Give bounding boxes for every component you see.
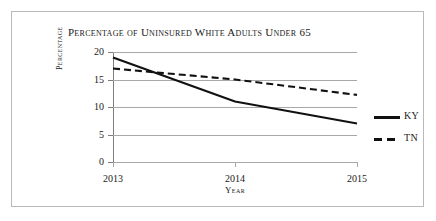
x-axis-title: Year	[113, 185, 357, 195]
y-tick-label: 15	[94, 75, 104, 85]
series-line-ky	[113, 58, 357, 124]
legend-line-dashed-icon	[374, 138, 400, 141]
legend-line-solid-icon	[374, 116, 400, 119]
legend-label-ky: KY	[404, 110, 419, 121]
y-tick-label: 20	[94, 47, 104, 57]
x-tick-label: 2014	[225, 174, 245, 184]
y-tick-label: 10	[94, 102, 104, 112]
x-tick-label: 2013	[103, 174, 123, 184]
chart-title: Percentage of Uninsured White Adults Und…	[12, 26, 367, 38]
series-line-tn	[113, 69, 357, 95]
plot-area: 05101520 201320142015	[113, 52, 357, 162]
y-tick-label: 5	[99, 130, 104, 140]
x-tick	[357, 162, 358, 167]
series-lines	[113, 52, 357, 163]
chart-legend: KY TN	[374, 108, 426, 152]
legend-label-tn: TN	[404, 132, 418, 143]
legend-item-ky[interactable]: KY	[374, 108, 426, 130]
y-tick-label: 0	[99, 157, 104, 167]
x-tick-label: 2015	[347, 174, 367, 184]
y-axis-title: Percentage	[55, 26, 64, 70]
legend-item-tn[interactable]: TN	[374, 130, 426, 152]
chart-container: Percentage of Uninsured White Adults Und…	[11, 11, 424, 207]
